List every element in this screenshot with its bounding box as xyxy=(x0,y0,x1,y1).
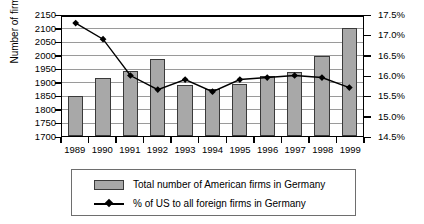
y-tick-label-right: 15.0% xyxy=(378,112,422,122)
x-tick-mark xyxy=(226,137,228,143)
x-tick-mark xyxy=(336,137,338,143)
x-tick-label-1999: 1999 xyxy=(336,144,364,158)
x-tick-label-1997: 1997 xyxy=(281,144,309,158)
y-tick-mark-right xyxy=(364,55,371,57)
y-tick-label-left: 2100 xyxy=(22,24,56,34)
x-tick-mark xyxy=(253,137,255,143)
line-marker-1996 xyxy=(264,74,271,81)
y-tick-label-left: 1700 xyxy=(22,132,56,142)
x-tick-mark xyxy=(198,137,200,143)
line-marker-1992 xyxy=(154,86,161,93)
x-tick-mark xyxy=(143,137,145,143)
x-tick-mark xyxy=(60,137,62,143)
y-tick-label-left: 2150 xyxy=(22,10,56,20)
y-tick-label-right: 16.5% xyxy=(378,51,422,61)
line-marker-1993 xyxy=(182,76,189,83)
x-tick-label-1992: 1992 xyxy=(144,144,172,158)
x-tick-label-1998: 1998 xyxy=(309,144,337,158)
x-axis-labels: 1989199019911992199319941995199619971998… xyxy=(61,144,364,158)
y-tick-label-right: 15.5% xyxy=(378,91,422,101)
y-tick-label-left: 1850 xyxy=(22,91,56,101)
legend-item-bars: Total number of American firms in German… xyxy=(72,175,355,194)
y-tick-label-right: 16.0% xyxy=(378,71,422,81)
line-marker-1999 xyxy=(346,84,353,91)
y-tick-label-left: 1900 xyxy=(22,78,56,88)
line-diamond-swatch-icon xyxy=(94,199,124,209)
x-axis-ticks xyxy=(61,137,364,144)
line-series xyxy=(62,15,363,136)
chart-figure: Number of firms 215021002050200019501900… xyxy=(0,0,424,224)
plot-area xyxy=(61,15,364,137)
y-tick-mark-right xyxy=(364,116,371,118)
x-tick-mark xyxy=(281,137,283,143)
bar-swatch-icon xyxy=(94,180,124,190)
y-tick-label-left: 2050 xyxy=(22,37,56,47)
x-tick-label-1993: 1993 xyxy=(171,144,199,158)
y-tick-label-left: 1800 xyxy=(22,105,56,115)
y-tick-mark-right xyxy=(364,15,371,17)
y-tick-label-left: 1950 xyxy=(22,64,56,74)
line-marker-1994 xyxy=(209,88,216,95)
y-tick-label-right: 17.5% xyxy=(378,10,422,20)
x-tick-label-1994: 1994 xyxy=(199,144,227,158)
x-tick-label-1996: 1996 xyxy=(254,144,282,158)
y-tick-label-left: 2000 xyxy=(22,51,56,61)
line-marker-1998 xyxy=(319,74,326,81)
x-tick-label-1995: 1995 xyxy=(226,144,254,158)
legend-label-line: % of US to all foreign firms in Germany xyxy=(133,198,306,210)
x-tick-mark xyxy=(88,137,90,143)
y-tick-mark-right xyxy=(364,137,371,139)
y-tick-mark-right xyxy=(364,76,371,78)
x-tick-mark xyxy=(363,137,365,143)
chart-legend: Total number of American firms in German… xyxy=(71,169,356,216)
y-tick-label-left: 1750 xyxy=(22,118,56,128)
x-tick-mark xyxy=(170,137,172,143)
x-tick-label-1990: 1990 xyxy=(89,144,117,158)
x-tick-label-1991: 1991 xyxy=(116,144,144,158)
legend-item-line: % of US to all foreign firms in Germany xyxy=(72,194,355,213)
legend-label-bars: Total number of American firms in German… xyxy=(133,179,325,191)
x-tick-mark xyxy=(308,137,310,143)
x-tick-label-1989: 1989 xyxy=(61,144,89,158)
line-marker-1989 xyxy=(72,20,79,27)
y-tick-mark-right xyxy=(364,96,371,98)
line-marker-1995 xyxy=(236,76,243,83)
x-tick-mark xyxy=(115,137,117,143)
y-tick-mark-right xyxy=(364,35,371,37)
line-marker-1997 xyxy=(291,72,298,79)
y-tick-label-right: 17.0% xyxy=(378,30,422,40)
line-path xyxy=(76,23,350,92)
y-tick-label-right: 14.5% xyxy=(378,132,422,142)
